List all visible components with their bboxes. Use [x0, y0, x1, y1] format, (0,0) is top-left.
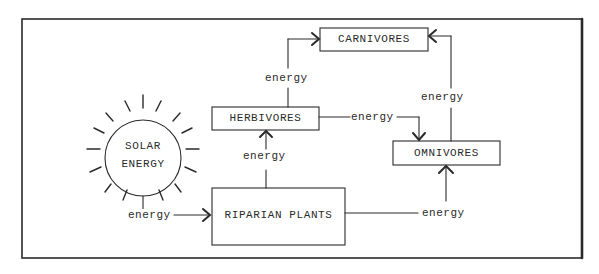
edge-label-omnivores-carnivores: energy — [421, 91, 464, 104]
solar-energy-label-line1: SOLAR — [120, 140, 166, 153]
edge-label-plants-omnivores: energy — [422, 207, 465, 220]
solar-energy-label-line2: ENERGY — [114, 158, 172, 171]
edge-label-solar-plants: energy — [128, 209, 171, 222]
diagram-frame — [22, 19, 582, 258]
edge-label-plants-herbivores: energy — [243, 150, 286, 163]
edge-label-herbivores-omnivores: energy — [351, 111, 394, 124]
carnivores-label: CARNIVORES — [320, 33, 428, 46]
omnivores-label: OMNIVORES — [393, 147, 500, 160]
edge-label-herbivores-carnivores: energy — [265, 72, 308, 85]
herbivores-label: HERBIVORES — [212, 112, 319, 125]
riparian-plants-label: RIPARIAN PLANTS — [212, 209, 345, 222]
food-web-diagram — [0, 0, 599, 274]
